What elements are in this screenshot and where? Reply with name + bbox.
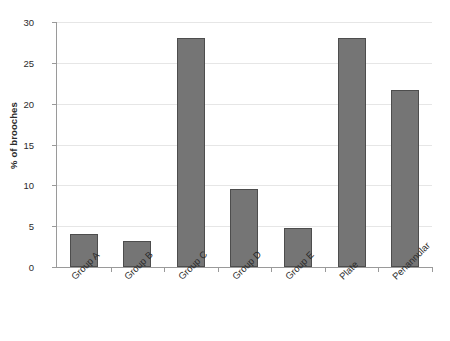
x-tick-mark <box>164 267 165 272</box>
y-tick-label: 25 <box>0 57 34 68</box>
x-tick-mark <box>432 267 433 272</box>
bar <box>391 90 419 267</box>
x-tick-mark <box>378 267 379 272</box>
y-tick-label: 0 <box>0 262 34 273</box>
y-tick-label: 5 <box>0 221 34 232</box>
y-axis-title-text: % of brooches <box>8 102 19 169</box>
y-tick-label: 30 <box>0 17 34 28</box>
x-tick-mark <box>271 267 272 272</box>
plot-area: 051015202530 <box>57 22 432 267</box>
x-tick-mark <box>111 267 112 272</box>
bar <box>338 38 366 267</box>
bar <box>177 38 205 267</box>
x-axis-labels: Group AGroup BGroup CGroup DGroup EPlate… <box>57 274 432 341</box>
bar-slot <box>218 22 272 267</box>
bar-slot <box>164 22 218 267</box>
x-tick-mark <box>325 267 326 272</box>
bar-slot <box>378 22 432 267</box>
bar-slot <box>325 22 379 267</box>
bar-slot <box>111 22 165 267</box>
bar-slot <box>57 22 111 267</box>
y-tick-label: 10 <box>0 180 34 191</box>
x-tick-mark <box>218 267 219 272</box>
y-tick-label: 20 <box>0 98 34 109</box>
y-tick-mark <box>52 267 57 268</box>
bar-slot <box>271 22 325 267</box>
bar-chart: % of brooches 051015202530 Group AGroup … <box>0 0 450 341</box>
y-tick-label: 15 <box>0 139 34 150</box>
